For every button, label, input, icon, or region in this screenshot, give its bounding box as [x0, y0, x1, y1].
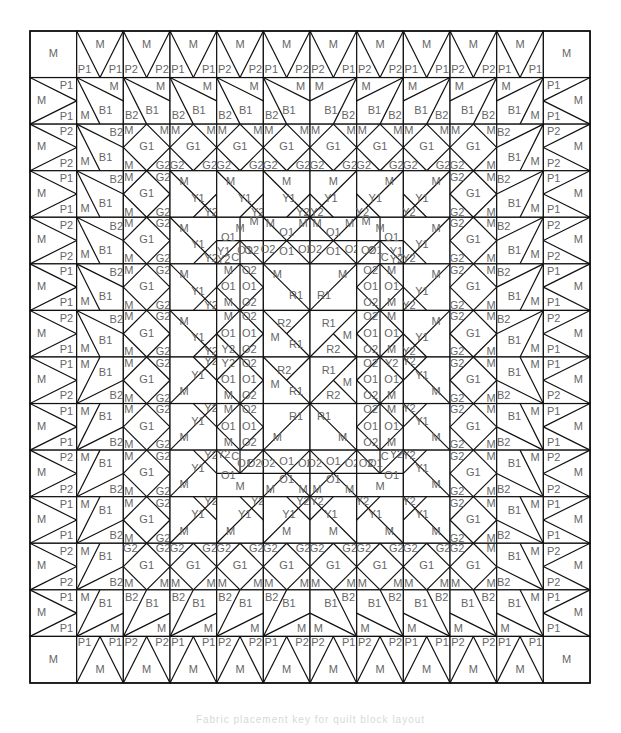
fabric-label: P1	[60, 358, 73, 370]
fabric-label: G2	[310, 159, 325, 171]
fabric-label: G1	[186, 140, 201, 152]
fabric-label: G2	[436, 542, 451, 554]
fabric-label: M	[142, 663, 151, 675]
quilt-block: MMG1G2M	[450, 124, 497, 171]
fabric-label: P1	[202, 636, 215, 648]
quilt-block: MY1Y2	[170, 264, 218, 311]
quilt-block: Y2Y1M	[310, 495, 357, 543]
fabric-label: M	[358, 577, 367, 589]
fabric-label: B2	[110, 173, 123, 185]
fabric-label: O1	[242, 420, 257, 432]
quilt-block: P1P1M	[77, 636, 124, 683]
quilt-block: Y2O2O1O1MO2	[217, 357, 264, 404]
fabric-label: M	[530, 498, 539, 510]
fabric-label: O1	[384, 327, 399, 339]
fabric-label: M	[224, 310, 233, 322]
fabric-label: M	[487, 577, 496, 589]
fabric-label: P1	[547, 343, 560, 355]
quilt-block: G2MG1G2M	[450, 310, 497, 357]
quilt-block: MB1B2	[497, 357, 544, 404]
fabric-label: M	[530, 358, 539, 370]
fabric-label: M	[124, 450, 133, 462]
fabric-label: M	[574, 606, 583, 618]
fabric-label: M	[160, 124, 169, 136]
fabric-label: M	[387, 296, 396, 308]
fabric-label: P2	[389, 63, 402, 75]
fabric-label: B2	[172, 591, 185, 603]
fabric-label: P1	[547, 296, 560, 308]
fabric-label: B2	[218, 109, 231, 121]
fabric-label: G1	[466, 513, 481, 525]
fabric-label: M	[314, 622, 323, 634]
fabric-label: M	[37, 187, 46, 199]
fabric-label: P1	[60, 203, 73, 215]
fabric-label: C	[381, 251, 389, 263]
fabric-label: P1	[171, 63, 184, 75]
fabric-label: Y1	[415, 369, 428, 381]
fabric-label: M	[250, 622, 259, 634]
fabric-label: M	[343, 376, 352, 388]
fabric-label: G2	[156, 497, 171, 509]
quilt-block: P1MP1	[543, 497, 590, 544]
fabric-label: R1	[322, 364, 336, 376]
fabric-label: M	[124, 438, 133, 450]
fabric-label: M	[37, 140, 46, 152]
quilt-block: P1MP1	[30, 78, 77, 125]
fabric-label: M	[37, 94, 46, 106]
fabric-label: Y1	[415, 285, 428, 297]
fabric-label: G1	[466, 559, 481, 571]
fabric-label: P1	[547, 405, 560, 417]
quilt-block: MB1M	[497, 590, 544, 637]
fabric-label: B2	[110, 483, 123, 495]
fabric-label: B2	[172, 109, 185, 121]
fabric-label: M	[487, 310, 496, 322]
quilt-block: MMG1G2G2	[216, 124, 263, 171]
fabric-label: G2	[450, 345, 465, 357]
quilt-block: P1MP1	[543, 404, 590, 451]
fabric-label: B1	[414, 597, 427, 609]
fabric-label: M	[37, 606, 46, 618]
fabric-label: P2	[358, 636, 371, 648]
quilt-block: R2MR1	[263, 310, 310, 357]
fabric-label: P1	[547, 529, 560, 541]
fabric-label: G1	[139, 466, 154, 478]
fabric-label: M	[204, 622, 213, 634]
fabric-label: Y1	[191, 285, 204, 297]
fabric-label: M	[124, 264, 133, 276]
fabric-label: P1	[60, 110, 73, 122]
quilt-block: Y2CO1O2MO1	[217, 448, 264, 497]
quilt-block: G2MG1G2M	[450, 357, 497, 404]
fabric-label: B2	[110, 220, 123, 232]
fabric-label: B1	[368, 104, 381, 116]
fabric-label: M	[206, 577, 215, 589]
quilt-block: MG2G1MG2	[123, 357, 170, 404]
fabric-label: M	[179, 431, 188, 443]
fabric-label: M	[574, 327, 583, 339]
quilt-block: MY1Y2	[170, 310, 218, 357]
quilt-block: B2B1M	[357, 590, 404, 637]
quilt-block: MO1MO2O1O2	[307, 217, 359, 264]
fabric-label: M	[487, 438, 496, 450]
fabric-label: O2	[363, 310, 378, 322]
fabric-label: G2	[156, 357, 171, 369]
quilt-block: Y2Y1M	[402, 495, 450, 543]
fabric-label: M	[249, 80, 258, 92]
fabric-label: G1	[139, 373, 154, 385]
fabric-label: G2	[450, 450, 465, 462]
fabric-label: G2	[342, 542, 357, 554]
fabric-label: G1	[233, 559, 248, 571]
fabric-label: M	[179, 385, 188, 397]
fabric-label: G2	[202, 159, 217, 171]
fabric-label: M	[124, 345, 133, 357]
fabric-label: M	[574, 187, 583, 199]
fabric-label: M	[385, 525, 394, 537]
fabric-label: M	[266, 217, 275, 229]
fabric-label: B1	[508, 504, 521, 516]
quilt-block: P2P2M	[357, 636, 404, 683]
fabric-label: M	[37, 420, 46, 432]
fabric-label: B1	[324, 104, 337, 116]
fabric-label: R1	[289, 410, 303, 422]
fabric-label: G1	[326, 559, 341, 571]
fabric-label: Y2	[310, 495, 323, 507]
fabric-label: M	[338, 431, 347, 443]
